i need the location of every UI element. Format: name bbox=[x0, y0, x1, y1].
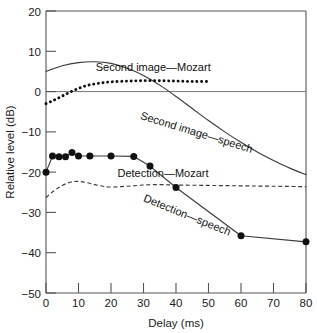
chart-svg: 20 10 0 −10 −20 −30 −40 −50 0 10 20 30 4… bbox=[0, 0, 317, 333]
x-tick-label: 10 bbox=[72, 297, 85, 309]
data-point-marker bbox=[238, 232, 245, 239]
data-point-marker bbox=[303, 238, 310, 245]
y-tick-label: −40 bbox=[21, 247, 41, 259]
x-tick-label: 60 bbox=[235, 297, 248, 309]
x-tick-label: 0 bbox=[43, 297, 49, 309]
y-tick-label: −30 bbox=[21, 207, 41, 219]
x-axis-ticks bbox=[46, 283, 306, 293]
data-point-marker bbox=[75, 153, 82, 160]
data-point-marker bbox=[86, 153, 93, 160]
series-detection-speech-line bbox=[46, 152, 306, 241]
x-axis-tick-labels: 0 10 20 30 40 50 60 70 80 bbox=[43, 297, 313, 309]
y-tick-label: 10 bbox=[28, 46, 41, 58]
data-point-marker bbox=[173, 184, 180, 191]
data-point-marker bbox=[130, 153, 137, 160]
series-annotations: Second image—speech Second image—Mozart … bbox=[96, 61, 254, 238]
y-tick-label: 20 bbox=[28, 6, 41, 18]
series-detection-speech-markers bbox=[43, 149, 310, 245]
series-label-second-image-mozart: Second image—Mozart bbox=[96, 61, 211, 73]
x-tick-label: 80 bbox=[300, 297, 313, 309]
x-axis-title: Delay (ms) bbox=[148, 317, 204, 329]
x-tick-label: 40 bbox=[170, 297, 183, 309]
y-axis-tick-labels: 20 10 0 −10 −20 −30 −40 −50 bbox=[21, 6, 41, 300]
y-tick-label: −20 bbox=[21, 167, 41, 179]
data-point-marker bbox=[49, 153, 56, 160]
series-plot-area bbox=[43, 62, 310, 246]
y-axis-ticks bbox=[46, 11, 56, 293]
x-tick-label: 50 bbox=[202, 297, 215, 309]
plot-frame bbox=[46, 11, 306, 293]
y-axis-title: Relative level (dB) bbox=[4, 105, 16, 198]
data-point-marker bbox=[43, 169, 50, 176]
x-tick-label: 70 bbox=[267, 297, 280, 309]
series-label-second-image-speech: Second image—speech bbox=[139, 109, 254, 155]
x-tick-label: 20 bbox=[105, 297, 118, 309]
data-point-marker bbox=[108, 153, 115, 160]
series-label-detection-speech: Detection—speech bbox=[142, 192, 233, 238]
series-label-detection-mozart: Detection—Mozart bbox=[117, 167, 208, 179]
series-second-image-mozart-line bbox=[46, 81, 209, 104]
series-second-image-speech-line bbox=[46, 62, 306, 175]
x-tick-label: 30 bbox=[137, 297, 150, 309]
y-tick-label: −10 bbox=[21, 126, 41, 138]
y-tick-label: −50 bbox=[21, 288, 41, 300]
data-point-marker bbox=[69, 149, 76, 156]
chart-figure: 20 10 0 −10 −20 −30 −40 −50 0 10 20 30 4… bbox=[0, 0, 317, 333]
data-point-marker bbox=[56, 153, 63, 160]
data-point-marker bbox=[62, 153, 69, 160]
y-tick-label: 0 bbox=[35, 86, 41, 98]
